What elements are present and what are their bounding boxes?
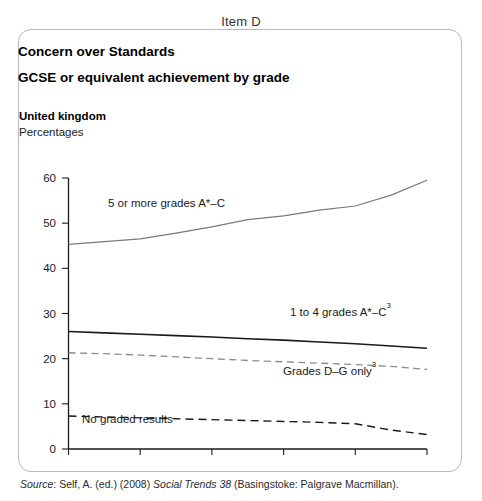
x-tick-label: 1999/2000: [186, 458, 238, 460]
series-label-superscript: 3: [372, 360, 377, 369]
y-axis-ticks: 0102030405060: [43, 172, 68, 455]
x-axis-ticks: 1995/961997/981999/20002001/022003/04200…: [62, 449, 435, 460]
x-tick-label: 2005/06: [394, 458, 434, 460]
y-tick-label: 20: [43, 353, 56, 365]
y-tick-label: 0: [50, 443, 56, 455]
y-tick-label: 50: [43, 217, 56, 229]
series-label-4: No graded results: [82, 413, 173, 425]
y-tick-label: 30: [43, 308, 56, 320]
series-label-1: 5 or more grades A*–C: [108, 197, 225, 209]
y-tick-label: 10: [43, 398, 56, 410]
y-tick-label: 40: [43, 262, 56, 274]
source-note: Source: Self, A. (ed.) (2008) Social Tre…: [20, 478, 399, 490]
series-annotations: 5 or more grades A*–C1 to 4 grades A*–C3…: [82, 197, 392, 425]
line-chart: 0102030405060 1995/961997/981999/2000200…: [0, 0, 444, 443]
source-publication: Social Trends 38: [153, 478, 231, 490]
series-line-2: [69, 332, 428, 349]
x-tick-label: 1995/96: [62, 458, 102, 460]
series-label-superscript: 3: [387, 301, 392, 310]
series-label-2: 1 to 4 grades A*–C3: [290, 301, 392, 319]
y-tick-label: 60: [43, 172, 56, 184]
x-tick-label: 2003/04: [335, 458, 375, 460]
series-label-3: Grades D–G only3: [283, 360, 377, 378]
x-tick-label: 1997/98: [120, 458, 160, 460]
source-prefix: Source: [20, 478, 53, 490]
chart-svg: 0102030405060 1995/961997/981999/2000200…: [0, 0, 482, 460]
x-tick-label: 2001/02: [264, 458, 304, 460]
series-line-1: [69, 180, 428, 244]
source-publisher: (Basingstoke: Palgrave Macmillan).: [231, 478, 398, 490]
source-author: Self, A. (ed.) (2008): [59, 478, 153, 490]
